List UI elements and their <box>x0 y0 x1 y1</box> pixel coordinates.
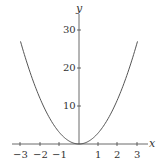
x-tick-label: 2 <box>114 150 120 160</box>
x-tick-label: 3 <box>134 150 140 160</box>
x-tick-label: −1 <box>52 150 67 160</box>
x-tick-label: 1 <box>95 150 101 160</box>
x-tick-label: −2 <box>33 150 48 160</box>
y-tick-label: 10 <box>63 101 76 111</box>
x-axis-label: x <box>149 139 155 149</box>
y-axis-label: y <box>76 4 82 14</box>
y-tick-label: 30 <box>63 25 76 35</box>
y-tick-label: 20 <box>63 63 76 73</box>
x-tick-label: −3 <box>13 150 28 160</box>
plot-area <box>0 0 160 166</box>
